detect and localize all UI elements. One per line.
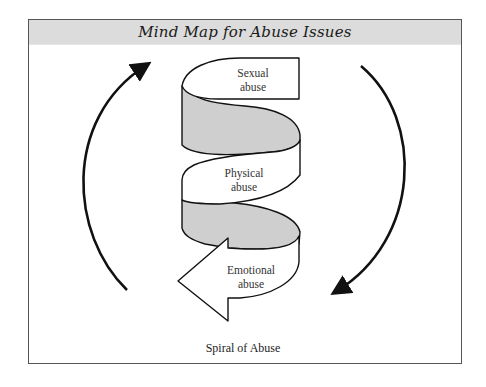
level-label-emotional-line1: Emotional [227, 264, 275, 276]
downward-curved-arrow-icon [337, 66, 405, 291]
spiral-diagram: Sexual abuse Physical abuse Emotional ab… [0, 0, 486, 387]
ribbon-back-band-2 [182, 200, 300, 249]
level-label-emotional-line2: abuse [238, 278, 264, 290]
level-label-sexual-line2: abuse [240, 81, 266, 93]
diagram-caption: Spiral of Abuse [0, 341, 486, 356]
level-label-physical-line2: abuse [231, 181, 257, 193]
level-label-sexual-line1: Sexual [237, 67, 268, 79]
upward-curved-arrow-icon [83, 66, 145, 290]
level-label-physical-line1: Physical [225, 167, 264, 180]
